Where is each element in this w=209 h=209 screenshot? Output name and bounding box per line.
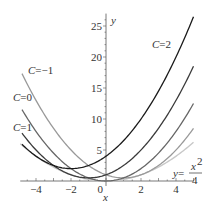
y-tick-label: 10 bbox=[91, 113, 103, 125]
envelope-label-exponent: 2 bbox=[197, 155, 203, 167]
y-tick-label: 20 bbox=[91, 51, 103, 63]
y-axis-label: y bbox=[110, 14, 116, 26]
y-tick-label: 15 bbox=[91, 82, 103, 94]
envelope-label-numerator: x bbox=[190, 160, 196, 172]
curve-label-c-neg1: C=−1 bbox=[28, 64, 53, 76]
x-tick-label: −2 bbox=[65, 183, 77, 195]
y-ticks: 510152025 bbox=[91, 20, 103, 156]
y-tick-label: 25 bbox=[91, 20, 103, 32]
envelope-label-denominator: 4 bbox=[192, 174, 198, 186]
x-tick-label: 2 bbox=[138, 183, 144, 195]
x-axis-label: x bbox=[102, 191, 108, 203]
x-tick-label: −4 bbox=[30, 183, 42, 195]
chart: −4−2024 510152025 x y C=2 C=−1 C=0 C=1 y… bbox=[0, 0, 209, 209]
y-tick-label: 5 bbox=[97, 144, 103, 156]
curve-label-c2: C=2 bbox=[152, 38, 171, 50]
envelope-label-lhs: y= bbox=[172, 167, 184, 179]
x-tick-label: 4 bbox=[173, 183, 179, 195]
curve-label-c1: C=1 bbox=[13, 121, 32, 133]
curve-label-c0: C=0 bbox=[13, 91, 33, 103]
